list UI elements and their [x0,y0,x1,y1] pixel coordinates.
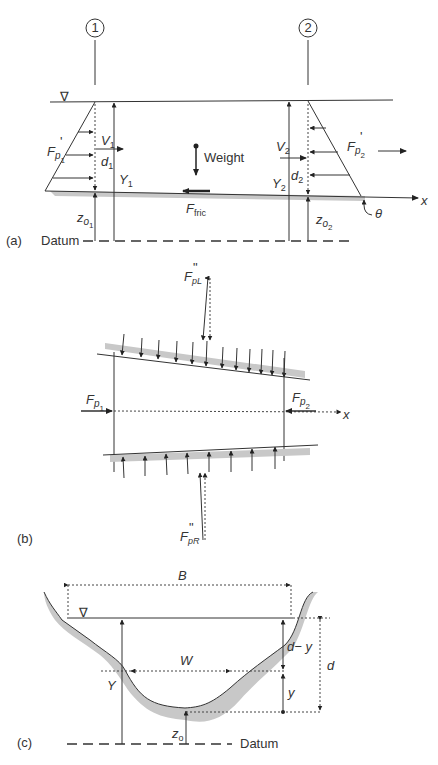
panel-a: 1 2 ∇ x Fp1 ' V1 d1 Y1 zo1 W [6,19,428,248]
fp1-label: Fp1 [47,144,66,165]
w-label: W [180,653,194,668]
section-1-label: 1 [91,20,98,35]
water-surface-symbol-c: ∇ [78,605,88,620]
fpr-prime: " [189,520,194,535]
d-label: d [327,658,335,673]
x-axis-label-b: x [342,407,350,422]
y-depth-label: y [287,685,296,700]
datum-label-c: Datum [240,736,278,751]
water-surface-symbol: ∇ [59,89,69,104]
y1-label: Y1 [119,172,133,189]
d1-label: d1 [101,154,113,171]
fp2-label-b: Fp2 [292,390,311,411]
y2-label: Y2 [272,176,286,193]
theta-label: θ [375,206,382,221]
section-2-label: 2 [304,20,311,35]
fp2-label: Fp2 [347,139,366,160]
weight-label: Weight [204,150,245,165]
v2-label: V2 [276,139,290,156]
panel-b-label: (b) [17,531,33,546]
ffric-label: Ffric [186,201,206,218]
panel-b: FpL " x Fp1 Fp2 FpR " (b) [17,260,350,546]
d2-label: d2 [291,168,303,185]
fp1-label-b: Fp1 [86,392,105,413]
water-surface-line [50,100,393,102]
datum-label: Datum [41,233,79,248]
x-axis-label: x [420,193,428,208]
bottom-pressure-arrows [123,447,275,478]
panel-c: B ∇ W Y zo d− y y d Datum (c) [17,568,335,751]
zo-label: zo [171,726,184,743]
zo1-label: zo1 [76,210,94,230]
svg-text:': ' [360,129,362,144]
d-minus-y-label: d− y [287,639,313,654]
panel-a-label: (a) [6,233,22,248]
v1-label: V1 [101,133,115,150]
zo2-label: zo2 [315,212,333,232]
y-total-label: Y [107,678,117,693]
fpl-prime: " [193,260,198,275]
svg-text:': ' [60,134,62,149]
panel-c-label: (c) [17,735,32,750]
hydraulic-momentum-figure: 1 2 ∇ x Fp1 ' V1 d1 Y1 zo1 W [0,0,438,765]
b-label: B [178,568,187,583]
